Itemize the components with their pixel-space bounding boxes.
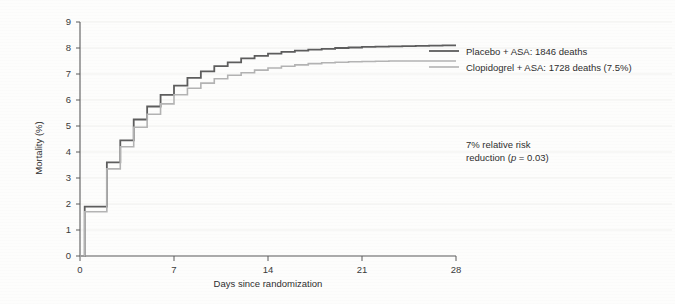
x-tick-label-28: 28 [451,264,462,275]
y-tick-label-0: 0 [66,250,71,261]
chart-figure: 0123456789 07142128 Mortality (%) Days s… [0,0,675,304]
chart-svg: 0123456789 07142128 Mortality (%) Days s… [0,0,675,304]
y-axis-title: Mortality (%) [33,121,44,174]
y-tick-label-5: 5 [66,120,71,131]
annotation-line-2-pre: reduction ( [466,152,512,163]
x-tick-label-0: 0 [77,264,82,275]
y-tick-label-6: 6 [66,94,71,105]
legend-label-placebo: Placebo + ASA: 1846 deaths [466,46,587,57]
y-tick-label-3: 3 [66,172,71,183]
y-tick-label-9: 9 [66,16,71,27]
annotation-line-2-post: = 0.03) [516,152,548,163]
legend-label-clopidogrel: Clopidogrel + ASA: 1728 deaths (7.5%) [466,62,632,73]
annotation-line-2: reduction (p = 0.03) [466,152,549,163]
x-tick-label-7: 7 [171,264,176,275]
y-tick-label-2: 2 [66,198,71,209]
y-tick-label-8: 8 [66,42,71,53]
x-tick-label-21: 21 [357,264,368,275]
x-tick-label-14: 14 [263,264,274,275]
annotation-line-1: 7% relative risk [466,139,531,150]
x-axis-title: Days since randomization [214,278,323,289]
y-tick-label-1: 1 [66,224,71,235]
y-tick-label-4: 4 [66,146,71,157]
y-tick-label-7: 7 [66,68,71,79]
